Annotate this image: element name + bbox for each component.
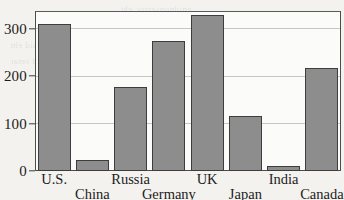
x-axis-labels: U.S.ChinaRussiaGermanyUKJapanIndiaCanada [35, 171, 341, 200]
bar-uk [191, 15, 224, 171]
figure-canvas: gnidnopserroc eht eht fo noitubirtsid eh… [0, 0, 344, 200]
y-tick-label-200: 200 [4, 68, 27, 85]
y-axis: 0100200300 [0, 11, 35, 171]
x-tick-label-us: U.S. [41, 171, 67, 188]
y-tick-label-300: 300 [4, 20, 27, 37]
bar-russia [114, 87, 147, 172]
y-tick-label-0: 0 [19, 163, 27, 180]
y-tick-label-100: 100 [4, 115, 27, 132]
bar-us [38, 24, 71, 171]
x-tick-label-uk: UK [197, 171, 218, 188]
x-tick-label-india: India [269, 171, 299, 188]
bar-germany [152, 41, 185, 171]
bars-layer [35, 11, 341, 171]
bar-canada [305, 68, 338, 171]
x-tick-label-japan: Japan [229, 186, 262, 200]
x-tick-label-canada: Canada [300, 186, 343, 200]
bar-japan [229, 116, 262, 171]
x-tick-label-germany: Germany [142, 186, 196, 200]
x-tick-label-china: China [75, 186, 110, 200]
bar-china [76, 160, 109, 171]
